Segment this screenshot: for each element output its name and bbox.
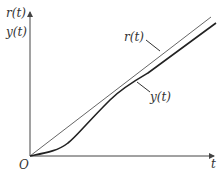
chart-canvas: r(t) y(t) O t r(t) y(t) [0,0,224,173]
r-annotation: r(t) [124,30,144,44]
r-series-line [30,17,211,156]
y-axis-label-y: y(t) [5,25,27,39]
y-annotation: y(t) [149,90,171,104]
y-axis-label-r: r(t) [6,6,26,20]
x-axis-label: t [211,157,216,171]
r-annotation-leader [146,40,160,51]
origin-label: O [19,158,29,172]
y-series-line [30,23,216,156]
y-annotation-leader [137,82,150,92]
